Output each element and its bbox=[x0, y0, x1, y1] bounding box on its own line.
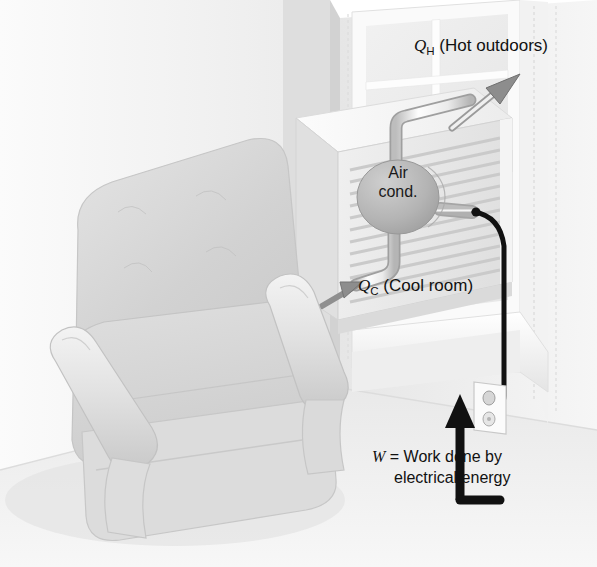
q-hot-text: (Hot outdoors) bbox=[439, 36, 548, 55]
cord-connector bbox=[472, 208, 481, 217]
q-cold-symbol: Q bbox=[358, 276, 370, 295]
outlet-socket-upper bbox=[483, 391, 495, 405]
wall-outlet bbox=[474, 382, 506, 434]
chair-arm-right-post bbox=[302, 400, 344, 474]
chair-arm-left-post bbox=[105, 458, 150, 538]
cord-stub bbox=[440, 209, 472, 212]
work-equals: = bbox=[390, 448, 399, 465]
ac-label-line1: Air bbox=[367, 163, 429, 182]
q-hot-symbol: Q bbox=[414, 36, 426, 55]
q-cold-text: (Cool room) bbox=[383, 276, 473, 295]
label-air-conditioner: Air cond. bbox=[367, 163, 429, 201]
label-q-hot: QH (Hot outdoors) bbox=[414, 36, 548, 57]
outlet-socket-ground bbox=[487, 417, 491, 421]
work-line1: Work done by bbox=[404, 448, 502, 465]
label-q-cold: QC (Cool room) bbox=[358, 276, 473, 297]
work-symbol: W bbox=[372, 448, 385, 465]
q-hot-subscript: H bbox=[426, 45, 434, 57]
label-work: W = Work done by electrical energy bbox=[372, 446, 511, 488]
figure-canvas: QH (Hot outdoors) QC (Cool room) W = Wor… bbox=[0, 0, 597, 567]
q-cold-subscript: C bbox=[370, 285, 378, 297]
ac-label-line2: cond. bbox=[367, 182, 429, 201]
work-line2: electrical energy bbox=[372, 467, 511, 488]
